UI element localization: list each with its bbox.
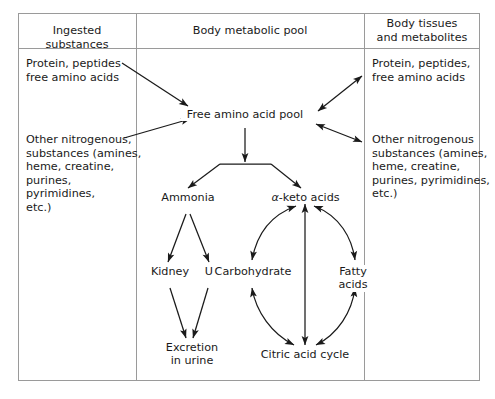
node-fatty-acids: Fatty acids bbox=[329, 265, 377, 292]
ingested-protein-block: Protein, peptides free amino acids bbox=[26, 57, 136, 84]
column-divider-right bbox=[364, 14, 365, 380]
node-excretion-in-urine: Excretion in urine bbox=[152, 341, 232, 368]
tissue-protein-block: Protein, peptides, free amino acids bbox=[372, 57, 487, 84]
keto-acids-label: -keto acids bbox=[279, 191, 340, 204]
figure-canvas: Ingested substances Body metabolic pool … bbox=[0, 0, 495, 399]
node-kidney: Kidney bbox=[142, 265, 198, 278]
node-carbohydrate: Carbohydrate bbox=[213, 265, 293, 278]
node-free-amino-acid-pool: Free amino acid pool bbox=[181, 108, 309, 121]
node-keto-acids: α-keto acids bbox=[258, 191, 353, 204]
column-header-metabolic-pool: Body metabolic pool bbox=[137, 24, 363, 38]
ingested-other-nitrogenous-block: Other nitrogenous, substances (amines, h… bbox=[26, 133, 142, 215]
alpha-symbol: α bbox=[271, 191, 278, 204]
column-header-ingested: Ingested substances bbox=[20, 24, 134, 51]
tissue-other-nitrogenous-block: Other nitrogenous substances (amines, he… bbox=[372, 133, 490, 201]
node-ammonia: Ammonia bbox=[152, 191, 224, 204]
node-citric-acid-cycle: Citric acid cycle bbox=[251, 348, 359, 361]
column-header-body-tissues: Body tissues and metabolites bbox=[366, 17, 478, 44]
